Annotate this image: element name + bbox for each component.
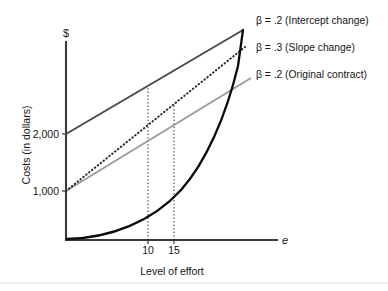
y-tick-label-1000: 1,000 (33, 185, 59, 197)
y-axis-symbol: $ (63, 27, 69, 39)
y-tick-label-2000: 2,000 (33, 128, 59, 140)
x-tick-label-10: 10 (142, 244, 154, 256)
x-tick-label-15: 15 (168, 244, 180, 256)
x-axis-title: Level of effort (140, 265, 204, 277)
chart-figure: $ e 2,000 1,000 10 15 Level of effort Co… (0, 0, 388, 291)
x-axis-symbol: e (282, 234, 288, 246)
cost-effort-chart: $ e 2,000 1,000 10 15 Level of effort Co… (0, 0, 388, 291)
legend-label-intercept-change: β = .2 (Intercept change) (256, 15, 369, 26)
legend-label-slope-change: β = .3 (Slope change) (256, 42, 355, 53)
y-axis-title: Costs (in dollars) (20, 106, 32, 185)
legend-label-original-contract: β = .2 (Original contract) (256, 69, 367, 80)
